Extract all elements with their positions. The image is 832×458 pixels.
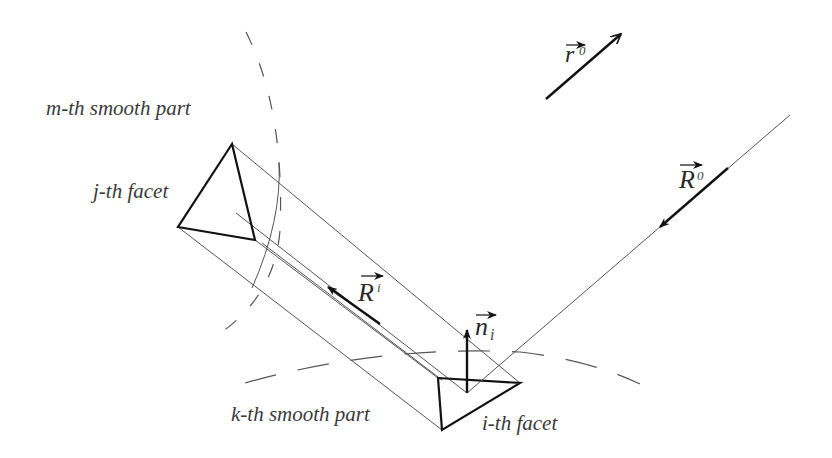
svg-text:r: r <box>565 41 575 67</box>
m-th-smooth-part-arc <box>210 32 281 340</box>
svg-text:0: 0 <box>697 168 704 183</box>
r0-vector-label: r 0 <box>565 41 586 67</box>
ni-vector-label: n i <box>475 312 496 343</box>
Ri-vector-label: R i <box>357 276 383 307</box>
svg-text:i: i <box>490 326 494 343</box>
svg-text:R: R <box>357 278 374 307</box>
j-th-facet-label: j-th facet <box>90 179 169 203</box>
facet-reflection-diagram: m-th smooth part j-th facet k-th smooth … <box>0 0 832 458</box>
R0-vector-label: R 0 <box>678 165 704 194</box>
incident-ray <box>467 115 790 393</box>
svg-text:R: R <box>678 165 695 194</box>
m-th-smooth-part-arc-solid <box>252 162 279 288</box>
k-th-smooth-part-label: k-th smooth part <box>231 402 371 426</box>
svg-text:0: 0 <box>579 43 586 58</box>
i-th-facet-label: i-th facet <box>482 411 558 435</box>
diagram-canvas: m-th smooth part j-th facet k-th smooth … <box>0 0 832 458</box>
m-th-smooth-part-label: m-th smooth part <box>46 96 192 120</box>
svg-text:i: i <box>377 280 381 295</box>
svg-text:n: n <box>475 312 488 341</box>
prism-edges <box>178 144 520 430</box>
j-th-facet-triangle <box>178 144 255 240</box>
